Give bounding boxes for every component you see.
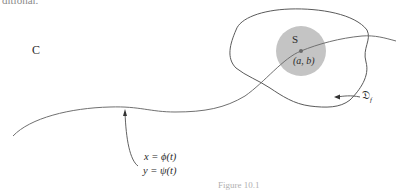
domain-arrowhead-icon	[334, 95, 340, 100]
param-y-equation: y = ψ(t)	[143, 165, 176, 176]
label-domain: 𝔇f	[362, 89, 372, 104]
curve-c	[13, 36, 396, 136]
point-ab	[299, 49, 303, 53]
label-s: S	[292, 33, 298, 45]
domain-subscript: f	[370, 96, 372, 104]
domain-symbol: 𝔇	[362, 89, 370, 101]
diagram-canvas	[0, 0, 396, 191]
param-x-equation: x = ϕ(t)	[144, 151, 176, 162]
figure-caption: Figure 10.1	[218, 180, 260, 190]
label-point: (a, b)	[293, 55, 315, 66]
param-arrowhead-icon	[123, 109, 127, 116]
param-leader-line	[125, 112, 138, 166]
label-c: C	[32, 43, 40, 58]
